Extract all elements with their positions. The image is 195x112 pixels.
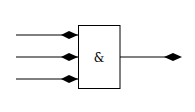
diamond-connector-icon	[61, 75, 78, 83]
input-3	[16, 75, 78, 83]
input-2	[16, 53, 78, 61]
output	[120, 53, 182, 61]
logic-gate-diagram: &	[0, 0, 195, 112]
input-1	[16, 31, 78, 39]
diamond-connector-icon	[164, 53, 182, 61]
gate-label: &	[94, 51, 105, 65]
diamond-connector-icon	[61, 53, 78, 61]
diamond-connector-icon	[61, 31, 78, 39]
